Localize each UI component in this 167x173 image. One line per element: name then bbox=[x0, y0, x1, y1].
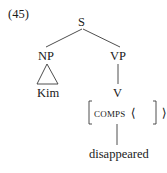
node-np: NP bbox=[38, 50, 54, 63]
leaf-disappeared: disappeared bbox=[89, 148, 149, 161]
example-number: (45) bbox=[8, 8, 29, 21]
node-v: V bbox=[113, 87, 122, 100]
edge-s-vp bbox=[83, 29, 120, 47]
leaf-kim: Kim bbox=[37, 87, 59, 100]
avm-feature-comps: COMPS bbox=[94, 109, 126, 119]
edge-s-np bbox=[46, 29, 82, 47]
node-s: S bbox=[78, 16, 85, 29]
node-vp: VP bbox=[110, 50, 126, 63]
avm-comps: COMPS ⟨ ⟩ bbox=[94, 107, 167, 120]
np-triangle bbox=[37, 64, 58, 84]
avm-left-bracket bbox=[89, 101, 92, 124]
avm-list-open: ⟨ bbox=[131, 106, 136, 120]
avm-list-close: ⟩ bbox=[162, 106, 167, 120]
